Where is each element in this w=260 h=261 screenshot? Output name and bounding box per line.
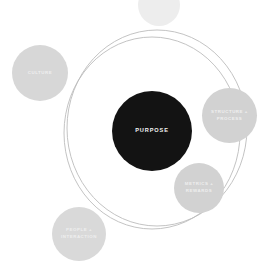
- node-people-interaction-label: PEOPLE + INTERACTION: [58, 227, 100, 240]
- node-culture[interactable]: CULTURE: [12, 45, 68, 101]
- node-structure-process[interactable]: STRUCTURE + PROCESS: [202, 88, 257, 143]
- core-purpose-circle[interactable]: PURPOSE: [112, 91, 192, 171]
- node-culture-label: CULTURE: [25, 70, 56, 77]
- node-metrics-rewards[interactable]: METRICS + REWARDS: [174, 163, 224, 213]
- core-purpose-label: PURPOSE: [135, 127, 169, 135]
- node-people-interaction[interactable]: PEOPLE + INTERACTION: [52, 207, 106, 261]
- node-metrics-rewards-label: METRICS + REWARDS: [182, 181, 217, 194]
- node-structure-process-label: STRUCTURE + PROCESS: [208, 109, 251, 122]
